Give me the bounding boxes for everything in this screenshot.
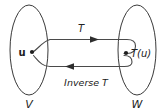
backward-arrowhead-icon (65, 63, 74, 70)
source-point-label: u (18, 47, 25, 58)
source-point-dot (30, 50, 34, 54)
codomain-set-label: W (132, 98, 144, 111)
diagram-canvas: u T(u) T Inverse T V W (0, 0, 166, 112)
function-mapping-diagram: u T(u) T Inverse T V W (0, 0, 166, 112)
target-point-label: T(u) (131, 48, 151, 59)
target-point-dot (124, 51, 128, 55)
domain-set-ellipse (10, 5, 48, 95)
backward-map-label: Inverse T (64, 77, 109, 88)
forward-map-label: T (78, 23, 85, 34)
domain-set-label: V (25, 98, 34, 111)
forward-arrowhead-icon (90, 36, 99, 43)
